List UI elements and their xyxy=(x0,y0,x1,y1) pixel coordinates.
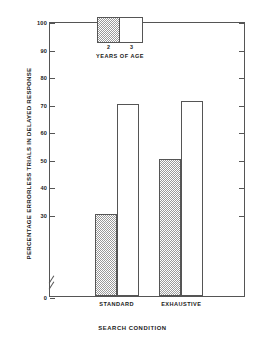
y-tick-label-60: 60 xyxy=(40,130,47,136)
x-category-label-standard: STANDARD xyxy=(99,301,134,307)
y-tick-70: 70 xyxy=(50,106,55,107)
legend-swatch-3 xyxy=(120,17,143,43)
y-tick-label-90: 90 xyxy=(40,48,47,54)
plot-area: 030405060708090100 STANDARDEXHAUSTIVE xyxy=(49,22,245,297)
y-tick-label-30: 30 xyxy=(40,213,47,219)
bar-standard-age-2 xyxy=(95,214,117,297)
y-tick-80: 80 xyxy=(50,78,55,79)
y-tick-right-30 xyxy=(239,216,244,217)
bar-standard-age-3 xyxy=(117,104,139,297)
bar-exhaustive-age-3 xyxy=(181,101,203,296)
y-tick-0: 0 xyxy=(50,298,55,299)
y-tick-40: 40 xyxy=(50,188,55,189)
legend-title: YEARS OF AGE xyxy=(89,53,151,59)
y-tick-50: 50 xyxy=(50,161,55,162)
y-tick-label-40: 40 xyxy=(40,185,47,191)
y-axis-title: PERCENTAGE ERRORLESS TRIALS IN DELAYED R… xyxy=(25,39,32,289)
x-category-label-exhaustive: EXHAUSTIVE xyxy=(161,301,201,307)
legend-swatches xyxy=(97,17,143,43)
axis-break-icon xyxy=(46,274,58,292)
legend-swatch-2 xyxy=(97,17,120,43)
y-tick-90: 90 xyxy=(50,51,55,52)
legend-key-3: 3 xyxy=(120,44,143,50)
y-tick-right-100 xyxy=(239,23,244,24)
legend-key-2: 2 xyxy=(97,44,120,50)
y-tick-30: 30 xyxy=(50,216,55,217)
y-tick-right-70 xyxy=(239,106,244,107)
y-tick-100: 100 xyxy=(50,23,55,24)
y-tick-label-70: 70 xyxy=(40,103,47,109)
y-tick-60: 60 xyxy=(50,133,55,134)
chart-figure: PERCENTAGE ERRORLESS TRIALS IN DELAYED R… xyxy=(0,0,265,350)
bar-exhaustive-age-2 xyxy=(159,159,181,297)
y-tick-label-80: 80 xyxy=(40,75,47,81)
y-tick-label-100: 100 xyxy=(37,20,47,26)
y-tick-label-0: 0 xyxy=(44,295,47,301)
y-tick-right-40 xyxy=(239,188,244,189)
y-tick-right-90 xyxy=(239,51,244,52)
legend: 2 3 YEARS OF AGE xyxy=(97,17,143,59)
y-tick-label-50: 50 xyxy=(40,158,47,164)
legend-keys: 2 3 xyxy=(97,44,143,50)
y-tick-right-60 xyxy=(239,133,244,134)
y-tick-right-50 xyxy=(239,161,244,162)
y-tick-right-80 xyxy=(239,78,244,79)
x-axis-title: SEARCH CONDITION xyxy=(0,325,265,331)
